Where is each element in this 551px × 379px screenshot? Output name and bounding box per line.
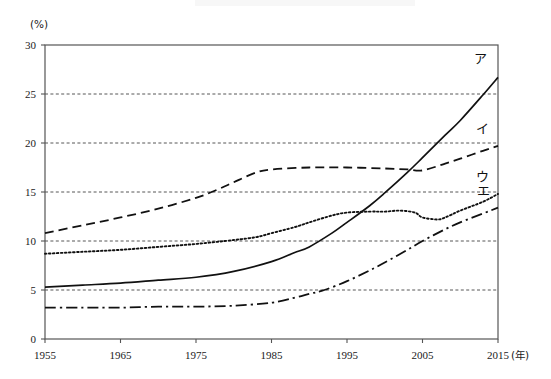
x-axis-unit-label: (年)	[511, 349, 529, 361]
y-tick-label-10: 10	[25, 235, 37, 247]
x-tick-label-1995: 1995	[336, 349, 359, 361]
chart-background	[0, 0, 551, 379]
y-tick-label-15: 15	[25, 186, 37, 198]
y-axis-unit-label: (%)	[30, 18, 48, 30]
y-tick-label-5: 5	[31, 284, 37, 296]
series-label-イ: イ	[476, 121, 489, 136]
x-tick-label-2015: 2015	[487, 349, 510, 361]
scan-artifact	[195, 0, 415, 6]
y-tick-label-30: 30	[25, 39, 37, 51]
series-label-ア: ア	[474, 51, 487, 66]
series-label-エ: エ	[477, 183, 490, 198]
line-chart: 051015202530 195519651975198519952005201…	[0, 0, 551, 379]
y-tick-label-0: 0	[31, 333, 37, 345]
x-tick-label-1985: 1985	[261, 349, 284, 361]
x-tick-label-1975: 1975	[185, 349, 208, 361]
x-tick-label-1965: 1965	[110, 349, 133, 361]
y-tick-label-25: 25	[25, 88, 37, 100]
y-tick-label-20: 20	[25, 137, 37, 149]
x-tick-label-1955: 1955	[34, 349, 57, 361]
x-tick-label-2005: 2005	[412, 349, 435, 361]
